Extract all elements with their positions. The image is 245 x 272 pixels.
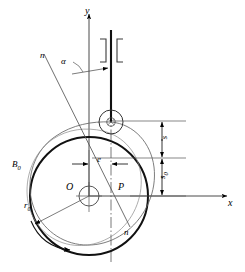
normal-upper-label: n (40, 51, 45, 60)
origin-label: O (66, 182, 73, 192)
displacement-dimension-group (92, 121, 186, 196)
y-axis-label: y (85, 6, 89, 16)
guide-bracket-right (117, 39, 123, 62)
initial-displacement-subscript: 0 (162, 172, 169, 175)
pressure-angle-arrow (72, 68, 108, 74)
displacement-label: s (160, 136, 169, 140)
base-point-subscript: 0 (18, 164, 21, 171)
initial-displacement-letter: s (157, 176, 167, 180)
base-point-label: B0 (12, 160, 21, 171)
pressure-angle-label: α (61, 57, 66, 66)
axis-group (89, 14, 227, 196)
base-radius-leader-group (35, 196, 89, 224)
x-axis-label: x (228, 198, 232, 208)
offset-label: e (97, 155, 101, 164)
pitch-point-label: P (118, 182, 124, 192)
base-radius-label: r0 (24, 201, 31, 212)
base-radius-subscript: 0 (28, 205, 31, 212)
cam-mechanism-diagram: y x n n α e B0 r0 O P s s0 (0, 0, 245, 272)
guide-bracket-left (100, 39, 106, 62)
initial-displacement-label: s0 (158, 172, 169, 179)
normal-line-n-n (44, 54, 130, 227)
base-radius-leader (35, 196, 89, 224)
pressure-angle-group (72, 62, 108, 74)
normal-lower-label: n (124, 228, 129, 237)
cam-pitch-curve (30, 122, 155, 245)
diagram-canvas (0, 0, 245, 272)
pressure-angle-arc (73, 62, 83, 72)
